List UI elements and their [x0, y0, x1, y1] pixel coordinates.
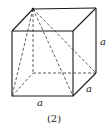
figure-caption: (2)	[47, 113, 61, 124]
cube-visible-edges	[12, 8, 96, 96]
label-right-vertical-edge: a	[100, 36, 106, 47]
cube-hidden-edges	[12, 9, 96, 96]
cube-pyramid-diagram: a a a (2)	[0, 0, 109, 133]
pyramid-edges	[12, 9, 96, 96]
apex-point	[32, 8, 35, 11]
label-right-depth-edge: a	[86, 83, 92, 94]
label-front-bottom-edge: a	[37, 97, 43, 108]
